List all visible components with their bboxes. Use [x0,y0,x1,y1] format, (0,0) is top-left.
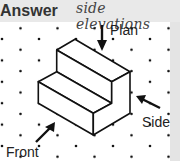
front-label: Front [6,144,39,160]
plan-label: Plan [110,22,138,38]
side-label: Side [142,114,170,130]
isometric-figure [0,0,180,161]
